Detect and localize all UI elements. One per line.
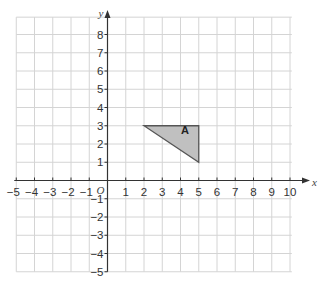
x-tick-label: 6	[214, 186, 220, 198]
shapes-layer: A	[144, 124, 199, 163]
x-tick-label: −5	[7, 186, 20, 198]
y-tick-label: 8	[97, 29, 103, 41]
x-tick-label: −4	[25, 186, 39, 198]
x-axis-label: x	[311, 176, 317, 188]
x-tick-label: 2	[141, 186, 147, 198]
y-tick-label: −4	[90, 248, 104, 260]
y-tick-label: −5	[90, 266, 103, 278]
y-axis-label: y	[98, 7, 104, 19]
y-tick-label: −2	[90, 211, 103, 223]
x-tick-label: 9	[269, 186, 275, 198]
tick-labels: −5−4−3−2−11234567891087654321−1−2−3−4−5O	[7, 29, 297, 278]
x-tick-label: −2	[61, 186, 74, 198]
origin-label: O	[97, 184, 105, 196]
y-tick-label: 5	[97, 83, 103, 95]
x-tick-label: 10	[284, 186, 297, 198]
y-tick-label: 1	[97, 156, 103, 168]
y-axis-arrow-icon	[105, 10, 111, 18]
x-tick-label: 8	[250, 186, 256, 198]
x-axis-arrow-icon	[302, 178, 310, 184]
x-tick-label: 1	[123, 186, 129, 198]
coordinate-grid: A xy −5−4−3−2−11234567891087654321−1−2−3…	[0, 0, 321, 296]
x-tick-label: 5	[196, 186, 202, 198]
y-tick-label: 7	[97, 47, 103, 59]
y-tick-label: 6	[97, 65, 103, 77]
y-tick-label: −3	[90, 229, 103, 241]
y-tick-label: 4	[97, 102, 104, 114]
shape-label: A	[181, 124, 189, 136]
x-tick-label: 3	[159, 186, 165, 198]
x-tick-label: 4	[177, 186, 184, 198]
y-tick-label: 3	[97, 120, 103, 132]
x-tick-label: 7	[232, 186, 238, 198]
x-tick-label: −3	[43, 186, 56, 198]
grid-lines	[16, 17, 292, 272]
y-tick-label: 2	[97, 138, 103, 150]
